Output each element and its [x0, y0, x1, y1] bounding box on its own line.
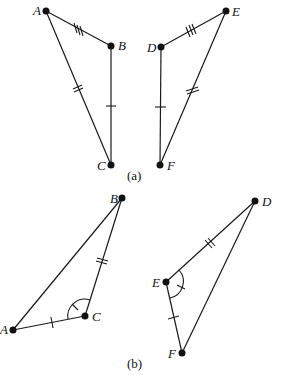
triangle-def-b: D E F	[151, 194, 272, 361]
point-d	[252, 198, 259, 205]
point-d	[158, 44, 165, 51]
point-c	[82, 313, 89, 320]
triple-tick-mark-icon	[74, 23, 83, 36]
label-b: B	[118, 38, 126, 53]
point-c	[108, 162, 115, 169]
congruent-triangles-diagram: A B C D E F (a)	[0, 0, 282, 375]
point-b	[119, 195, 126, 202]
triangle-abc-b: A B C	[0, 191, 126, 337]
label-e: E	[231, 4, 240, 19]
point-e	[163, 279, 170, 286]
point-a	[10, 327, 17, 334]
angle-tick-mark-icon	[72, 304, 78, 310]
point-f	[179, 350, 186, 357]
segment-ac	[46, 11, 111, 165]
triangle-abc-a: A B C	[32, 3, 126, 173]
label-b: B	[110, 191, 118, 206]
label-a: A	[32, 3, 41, 18]
triple-tick-mark-icon	[186, 24, 196, 37]
point-b	[108, 43, 115, 50]
segment-bc	[85, 198, 122, 316]
caption-a: (a)	[127, 168, 141, 183]
angle-arc-icon	[170, 270, 183, 298]
segment-ac	[13, 316, 85, 330]
label-e: E	[151, 275, 160, 290]
segment-df	[182, 201, 255, 353]
label-d: D	[146, 40, 157, 55]
segment-df	[160, 47, 161, 165]
caption-b: (b)	[127, 356, 142, 371]
label-c: C	[97, 158, 106, 173]
label-d: D	[261, 194, 272, 209]
label-f: F	[167, 346, 177, 361]
triangle-def-a: D E F	[146, 4, 240, 173]
label-a: A	[0, 322, 8, 337]
label-f: F	[166, 158, 176, 173]
angle-tick-mark-icon	[177, 285, 185, 289]
label-c: C	[92, 309, 101, 324]
point-e	[223, 8, 230, 15]
point-a	[43, 8, 50, 15]
point-f	[157, 162, 164, 169]
